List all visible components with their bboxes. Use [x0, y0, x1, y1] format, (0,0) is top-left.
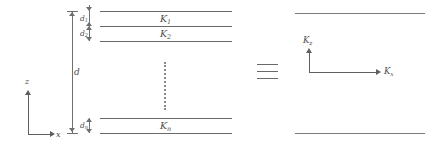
- kx-axis-subscript: x: [390, 71, 393, 77]
- kz-axis-label: Kz: [303, 36, 312, 46]
- d-dimension-arrowhead-up: [69, 12, 75, 16]
- kz-axis-line: [309, 53, 310, 73]
- kx-axis-line: [309, 72, 377, 73]
- layer-2-thickness-subscript: 2: [85, 32, 88, 38]
- x-axis-arrowhead: [50, 131, 55, 137]
- d-dimension-arrowhead-down: [69, 128, 75, 132]
- layer-2-thickness-label: d2: [80, 30, 88, 39]
- slab-top-boundary-line: [295, 13, 425, 14]
- vertical-ellipsis-icon: [164, 62, 168, 110]
- figure-canvas: z x d d1 d2 dn K1 K2 Kn Kz Kx: [0, 0, 439, 149]
- kz-axis-subscript: z: [309, 40, 312, 46]
- interface-line-3: [100, 118, 232, 119]
- z-axis-arrowhead: [25, 90, 31, 95]
- equivalence-icon-bar-2: [257, 71, 278, 72]
- medium-label-2: K2: [160, 29, 171, 40]
- x-axis-label: x: [56, 131, 61, 139]
- z-axis-line: [28, 95, 29, 134]
- medium-label-1: K1: [160, 14, 171, 25]
- kx-axis-label: Kx: [384, 67, 394, 77]
- kx-axis-arrowhead: [376, 69, 381, 75]
- medium-2-subscript: 2: [167, 33, 171, 41]
- medium-n-subscript: n: [167, 125, 171, 133]
- equivalence-icon-bar-1: [257, 64, 278, 65]
- layer-n-thickness-subscript: n: [85, 124, 88, 130]
- medium-label-n: Kn: [160, 121, 171, 132]
- x-axis-line: [28, 134, 51, 135]
- interface-line-1: [100, 26, 232, 27]
- interface-line-4: [100, 133, 232, 134]
- equivalence-icon-bar-3: [257, 78, 278, 79]
- layer-1-thickness-subscript: 1: [85, 17, 88, 23]
- d1-dimension-arrowhead-down: [86, 7, 92, 11]
- d-dimension-bottom-cap: [67, 133, 78, 134]
- z-axis-label: z: [25, 78, 29, 86]
- total-thickness-label: d: [74, 68, 80, 77]
- kz-axis-arrowhead: [306, 48, 312, 53]
- slab-bottom-boundary-line: [295, 133, 425, 134]
- layer-n-thickness-label: dn: [80, 122, 88, 131]
- d-dimension-line: [72, 12, 73, 133]
- interface-line-0: [100, 11, 232, 12]
- interface-line-2: [100, 41, 232, 42]
- layer-1-thickness-label: d1: [80, 15, 88, 24]
- medium-1-subscript: 1: [167, 18, 171, 26]
